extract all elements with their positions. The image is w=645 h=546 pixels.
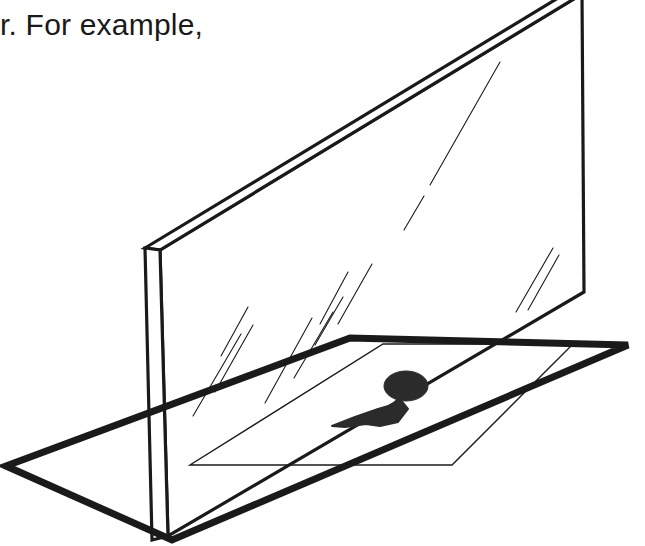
object-head-shape	[384, 371, 428, 401]
mirror-reflection-figure	[0, 0, 645, 546]
figure-page: r. For example,	[0, 0, 645, 546]
